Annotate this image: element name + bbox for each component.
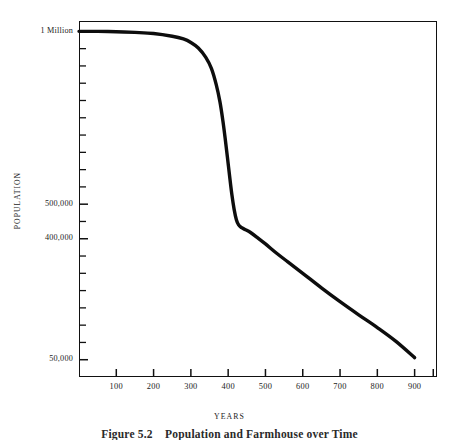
x-tick-label: 400 [208, 382, 248, 391]
y-axis-title: POPULATION [13, 161, 22, 241]
x-axis-title: YEARS [0, 412, 459, 421]
y-tick-label: 400,000 [45, 234, 73, 242]
x-tick-label: 900 [395, 382, 435, 391]
caption-text: Population and Farmhouse over Time [165, 428, 358, 440]
x-tick-label: 300 [171, 382, 211, 391]
x-tick-label: 600 [283, 382, 323, 391]
x-tick-label: 500 [245, 382, 285, 391]
caption-number: Figure 5.2 [101, 428, 153, 440]
figure-caption: Figure 5.2 Population and Farmhouse over… [0, 428, 459, 440]
x-tick-label: 100 [96, 382, 136, 391]
population-curve [79, 31, 415, 357]
x-tick-label: 800 [357, 382, 397, 391]
y-tick-label: 500,000 [45, 200, 73, 208]
x-axis-ticks [116, 369, 433, 377]
x-tick-label: 700 [320, 382, 360, 391]
y-axis-ticks [79, 31, 88, 359]
x-tick-label: 200 [134, 382, 174, 391]
y-tick-label: 50,000 [49, 355, 73, 363]
y-tick-label: 1 Million [40, 27, 73, 35]
